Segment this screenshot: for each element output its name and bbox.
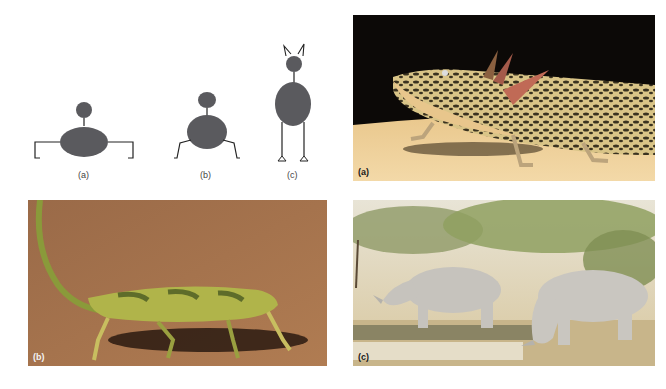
diagram-caption-a: (a): [78, 170, 89, 180]
posture-diagram: (a) (b) (c): [20, 30, 330, 190]
photo-label-c: (c): [358, 352, 369, 362]
diagram-caption-c: (c): [287, 170, 298, 180]
photo-label-b: (b): [33, 352, 45, 362]
erect-figure-icon: [275, 44, 311, 161]
photo-axolotl: (a): [353, 15, 655, 181]
semi-erect-figure-icon: [174, 92, 240, 158]
diagram-caption-b: (b): [200, 170, 211, 180]
axolotl-illustration: [353, 15, 655, 181]
chameleon-illustration: [28, 200, 327, 366]
rhinos-illustration: [353, 200, 655, 366]
photo-chameleon: (b): [28, 200, 327, 366]
posture-diagram-svg: [20, 30, 330, 190]
sprawling-figure-icon: [35, 102, 133, 158]
photo-rhinos: (c): [353, 200, 655, 366]
photo-label-a: (a): [358, 167, 369, 177]
